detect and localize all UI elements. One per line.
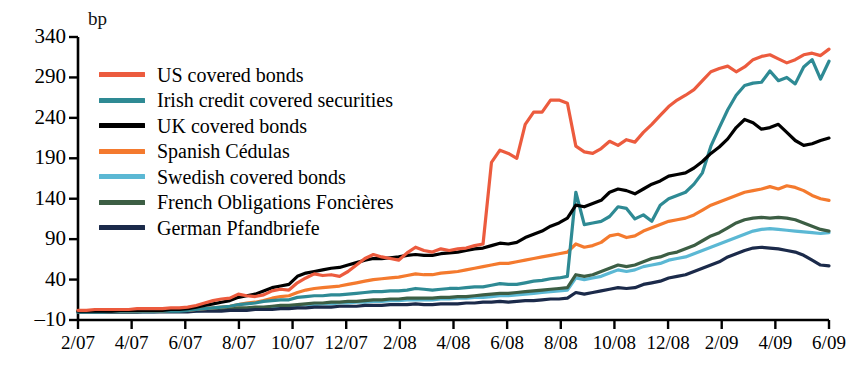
series-line — [78, 229, 829, 312]
legend-label: German Pfandbriefe — [157, 218, 320, 238]
legend-item[interactable]: Irish credit covered securities — [99, 88, 394, 114]
legend-item[interactable]: Swedish covered bonds — [99, 164, 394, 190]
legend-color-swatch — [99, 72, 145, 77]
series-line — [78, 247, 829, 312]
legend-item[interactable]: UK covered bonds — [99, 113, 394, 139]
legend-label: Spanish Cédulas — [157, 141, 290, 161]
legend-label: French Obligations Foncières — [157, 192, 394, 212]
legend-item[interactable]: German Pfandbriefe — [99, 215, 394, 241]
chart-legend: US covered bondsIrish credit covered sec… — [99, 62, 394, 241]
legend-color-swatch — [99, 174, 145, 179]
legend-item[interactable]: US covered bonds — [99, 62, 394, 88]
legend-item[interactable]: Spanish Cédulas — [99, 139, 394, 165]
legend-item[interactable]: French Obligations Foncières — [99, 190, 394, 216]
legend-color-swatch — [99, 123, 145, 128]
legend-label: Irish credit covered securities — [157, 90, 393, 110]
legend-label: US covered bonds — [157, 65, 304, 85]
legend-color-swatch — [99, 149, 145, 154]
legend-color-swatch — [99, 225, 145, 230]
legend-color-swatch — [99, 200, 145, 205]
legend-label: Swedish covered bonds — [157, 167, 346, 187]
legend-label: UK covered bonds — [157, 116, 307, 136]
legend-color-swatch — [99, 98, 145, 103]
